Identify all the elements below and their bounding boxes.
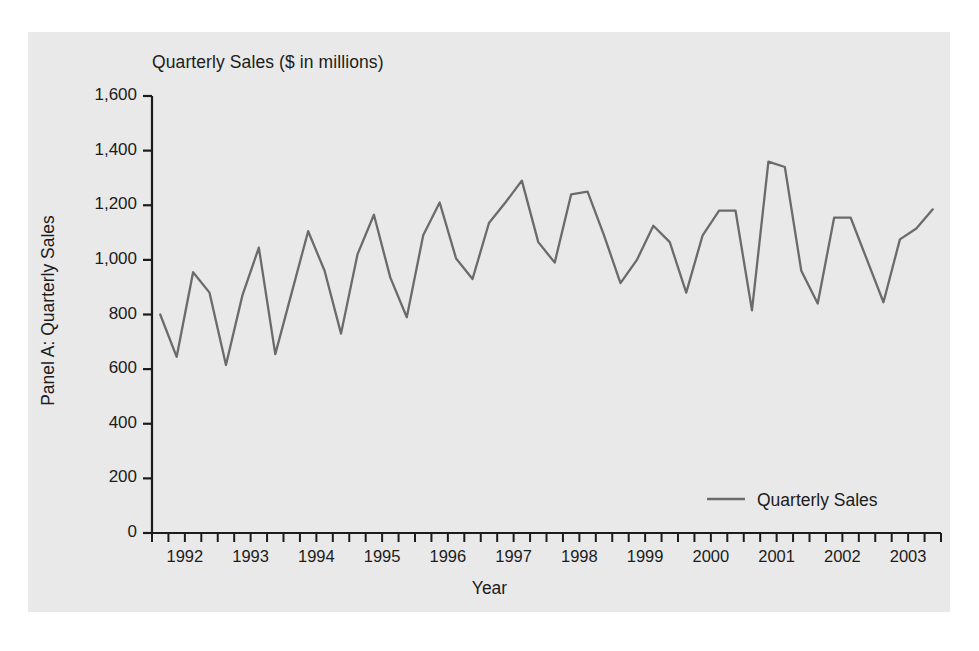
y-tick-label: 400 <box>65 413 137 433</box>
data-series-quarterly-sales <box>160 162 933 365</box>
y-tick-label: 800 <box>65 304 137 324</box>
y-tick-label: 1,200 <box>65 194 137 214</box>
y-tick-label: 200 <box>65 467 137 487</box>
x-tick-label: 2003 <box>868 547 948 566</box>
y-tick-label: 1,600 <box>65 85 137 105</box>
y-tick-label: 0 <box>65 522 137 542</box>
y-tick-marks <box>143 96 152 533</box>
y-tick-label: 1,000 <box>65 249 137 269</box>
y-tick-label: 600 <box>65 358 137 378</box>
x-tick-marks <box>152 533 941 542</box>
y-tick-label: 1,400 <box>65 140 137 160</box>
figure-container: Quarterly Sales ($ in millions) Panel A:… <box>0 0 979 651</box>
